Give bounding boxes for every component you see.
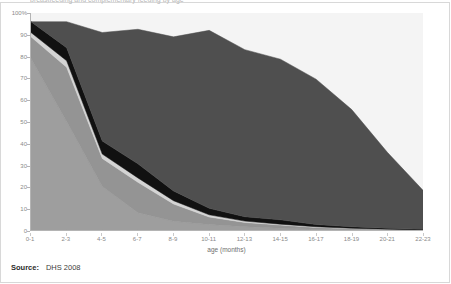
y-tick-label: 80 <box>20 54 27 60</box>
x-tick-label: 20-21 <box>380 236 395 242</box>
x-axis: 0-12-34-56-78-910-1112-1314-1516-1718-19… <box>30 233 423 245</box>
x-tick-label: 4-5 <box>97 236 106 242</box>
figure-title-text: breastfeeding and complementary feeding … <box>30 0 330 3</box>
y-tick-label: 70 <box>20 75 27 81</box>
x-axis-label: age (months) <box>30 246 423 253</box>
source-value: DHS 2008 <box>46 263 81 272</box>
chart-figure: breastfeeding and complementary feeding … <box>0 0 451 284</box>
x-tick-label: 6-7 <box>133 236 142 242</box>
source-note: Source:DHS 2008 <box>11 263 81 272</box>
y-tick-label: 100% <box>12 10 27 16</box>
source-label: Source: <box>11 263 39 272</box>
x-tick-label: 10-11 <box>201 236 216 242</box>
x-tick-label: 22-23 <box>415 236 430 242</box>
y-tick-label: 10 <box>20 206 27 212</box>
y-tick-label: 90 <box>20 32 27 38</box>
x-tick-label: 12-13 <box>237 236 252 242</box>
x-tick-label: 16-17 <box>308 236 323 242</box>
x-tick-label: 8-9 <box>169 236 178 242</box>
x-tick-label: 2-3 <box>61 236 70 242</box>
x-tick-label: 14-15 <box>272 236 287 242</box>
figure-title-cropped: breastfeeding and complementary feeding … <box>30 0 330 5</box>
y-tick-label: 60 <box>20 97 27 103</box>
y-tick-label: 30 <box>20 163 27 169</box>
stacked-area-chart <box>31 13 423 230</box>
plot-area <box>30 13 423 231</box>
x-tick-label: 18-19 <box>344 236 359 242</box>
y-tick-label: 40 <box>20 141 27 147</box>
y-tick-label: 50 <box>20 119 27 125</box>
y-tick-mark <box>27 231 30 232</box>
plot-wrapper <box>30 13 423 231</box>
x-tick-label: 0-1 <box>26 236 35 242</box>
y-tick-label: 20 <box>20 184 27 190</box>
y-axis: 0102030405060708090100% <box>0 13 30 231</box>
